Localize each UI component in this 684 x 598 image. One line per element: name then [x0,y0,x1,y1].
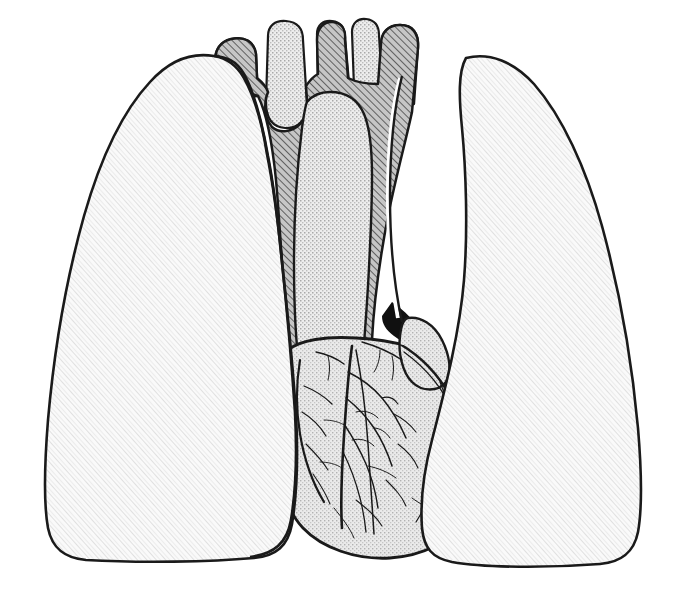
pulmonary-trunk-svc [294,92,372,372]
pulmonary-trunk-stippled-group [294,92,372,372]
anatomy-illustration-svg [0,0,684,598]
anatomy-figure [0,0,684,598]
vessel-stump-left-carotid [266,21,307,128]
